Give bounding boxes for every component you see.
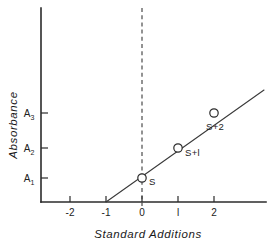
x-tick-labels: -2 -1 0 l 2 xyxy=(66,207,218,218)
y-tick-labels: A1 A2 A3 xyxy=(24,108,35,186)
x-tick-label-0: 0 xyxy=(139,207,145,218)
y-tick-label-a1: A1 xyxy=(24,173,35,186)
x-axis-title: Standard Additions xyxy=(94,228,202,240)
data-point-s[interactable] xyxy=(138,174,146,182)
data-point-s2[interactable] xyxy=(210,109,218,117)
x-tick-label-1: l xyxy=(177,207,179,218)
x-tick-label-2: 2 xyxy=(211,207,217,218)
y-tick-label-a2-sub: 2 xyxy=(30,149,34,156)
y-tick-label-a3-sub: 3 xyxy=(30,114,34,121)
data-point-label-s: S xyxy=(149,176,156,187)
regression-fit-line xyxy=(106,90,264,202)
chart-canvas: -2 -1 0 l 2 A1 A2 A3 S S+l S+2 Absorbanc… xyxy=(0,0,272,249)
data-point-label-s2: S+2 xyxy=(206,121,224,132)
data-point-s1[interactable] xyxy=(174,144,182,152)
x-tick-label--1: -1 xyxy=(102,207,111,218)
y-tick-label-a3: A3 xyxy=(24,108,35,121)
y-axis-title: Absorbance xyxy=(7,91,19,159)
data-point-labels: S S+l S+2 xyxy=(149,121,224,187)
y-tick-label-a1-sub: 1 xyxy=(30,179,34,186)
y-tick-label-a2: A2 xyxy=(24,143,35,156)
x-tick-label--2: -2 xyxy=(66,207,75,218)
y-tick-marks xyxy=(41,113,48,178)
standard-additions-chart: -2 -1 0 l 2 A1 A2 A3 S S+l S+2 Absorbanc… xyxy=(0,0,272,249)
data-point-label-s1: S+l xyxy=(185,147,200,158)
